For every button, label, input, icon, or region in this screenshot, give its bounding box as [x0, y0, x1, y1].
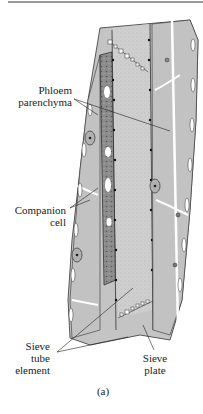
label-line: parenchyma — [14, 96, 72, 108]
label-line: plate — [138, 364, 172, 376]
label-companion-cell: Companion cell — [6, 204, 66, 228]
label-line: element — [8, 364, 50, 376]
label-sieve-plate: Sieve plate — [138, 352, 172, 376]
label-line: Sieve — [138, 352, 172, 364]
label-sieve-tube-element: Sieve tube element — [8, 340, 50, 376]
right-parenchyma-cells — [150, 20, 198, 335]
left-parenchyma-cells — [70, 55, 100, 338]
label-line: cell — [6, 216, 66, 228]
label-line: tube — [8, 352, 50, 364]
sieve-tube — [112, 24, 153, 330]
label-line: Companion — [6, 204, 66, 216]
label-phloem-parenchyma: Phloem parenchyma — [14, 84, 72, 108]
label-line: Sieve — [8, 340, 50, 352]
label-line: Phloem — [14, 84, 72, 96]
figure-caption: (a) — [90, 385, 116, 397]
